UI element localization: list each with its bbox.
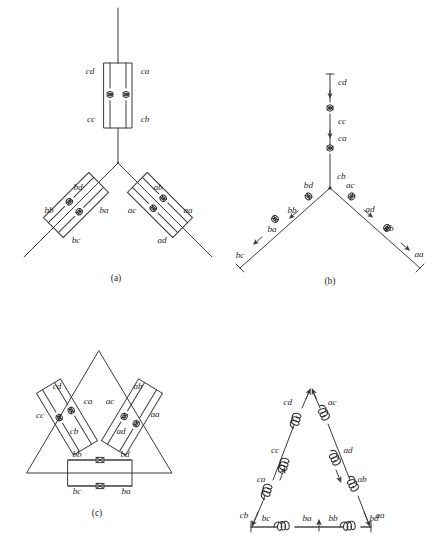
coil-ca-cb-b: [327, 145, 333, 151]
phase-a-bottom-branch-a: [132, 187, 177, 232]
coil-ac-ad-a: [149, 204, 158, 213]
label-a-ba: ba: [99, 205, 109, 215]
label-a-ac: ac: [128, 205, 137, 215]
caption-panel-a: (a): [111, 273, 122, 284]
coil-ca-cb-a: [123, 91, 129, 97]
caption-panel-c: (c): [92, 508, 103, 519]
label-b-bd: bd: [304, 180, 314, 190]
label-d-ca: ca: [257, 474, 266, 484]
label-d-ac: ac: [328, 397, 337, 407]
label-b-bc: bc: [236, 250, 245, 260]
label-a-aa: aa: [183, 205, 193, 215]
coil-bc-ba-d: [274, 521, 289, 530]
label-c-bb: bb: [72, 449, 82, 459]
label-b-bb: bb: [287, 205, 297, 215]
label-c-aa: aa: [150, 409, 160, 419]
coil-ca-cb-d: [259, 483, 273, 501]
label-c-bd: bd: [120, 449, 130, 459]
label-c-cd: cd: [53, 381, 62, 391]
coil-cd-cc-d: [288, 412, 302, 430]
caption-panel-b: (b): [324, 276, 335, 287]
label-a-bd: bd: [73, 182, 83, 192]
label-c-cc: cc: [36, 410, 44, 420]
phase-a-top-branch-a: [142, 177, 187, 222]
label-a-ad: ad: [157, 235, 167, 245]
label-b-ac: ac: [346, 180, 355, 190]
label-a-bc: bc: [72, 235, 81, 245]
coil-ad-ab-d: [327, 449, 341, 467]
phase-c-coil-box-c: [36, 379, 97, 455]
coil-ac-ad-c: [132, 419, 141, 428]
label-b-cc: cc: [338, 116, 346, 126]
label-a-ca: ca: [141, 66, 150, 76]
label-d-cc: cc: [271, 445, 279, 455]
coil-bd-bb-a: [65, 197, 74, 206]
label-c-ca: ca: [84, 396, 93, 406]
label-b-aa: aa: [414, 249, 424, 259]
arrow-a-out-b: [401, 243, 408, 249]
label-c-ba: ba: [121, 486, 131, 496]
coil-bb-bd-d: [340, 521, 355, 530]
coil-cd-cc-b: [327, 105, 333, 111]
label-d-ba: ba: [302, 513, 312, 523]
coil-bb-ba-b: [270, 214, 279, 223]
label-a-cb: cb: [141, 114, 150, 124]
coil-bd-bb-b: [304, 192, 313, 201]
coil-cd-ca-c: [67, 406, 76, 415]
panel-d: cd ac cc ad ca ab cb aa bc ba bb bd (d): [220, 300, 440, 536]
label-d-ab: ab: [357, 474, 367, 484]
label-d-bb: bb: [328, 513, 338, 523]
coil-ab-aa-a: [159, 194, 168, 203]
label-b-ad: ad: [365, 204, 375, 214]
phase-b-bottom-branch-a: [58, 187, 103, 232]
phase-b-top-branch-a: [48, 177, 93, 222]
phase-a-arm-b: [330, 188, 420, 268]
panel-c: cd cc ca cb ac ab aa ad bb bd bc ba (c): [0, 300, 220, 536]
label-a-ab: ab: [153, 182, 163, 192]
coil-ba-bc-a: [75, 207, 84, 216]
label-d-cb: cb: [240, 510, 249, 520]
label-c-cb: cb: [70, 426, 79, 436]
arrow-c-apex-d: [306, 391, 310, 399]
label-b-cd: cd: [338, 77, 347, 87]
phase-b-arm-b: [240, 188, 330, 268]
arrow-c-mid-d: [280, 470, 284, 480]
coil-cc-cd-a: [107, 91, 113, 97]
label-d-ad: ad: [343, 445, 353, 455]
label-b-ba: ba: [267, 224, 277, 234]
coil-cc-cb-c: [55, 413, 64, 422]
label-d-bc: bc: [262, 513, 271, 523]
coil-ab-aa-c: [120, 412, 129, 421]
arrow-c-bottom-d: [253, 512, 258, 524]
label-c-bc: bc: [73, 486, 82, 496]
label-d-cd: cd: [283, 397, 292, 407]
label-b-cb: cb: [337, 171, 346, 181]
label-c-ac: ac: [106, 396, 115, 406]
arrow-a-apex-d: [313, 391, 317, 399]
panel-a: cd ca cc cb bd bb ba bc ab ac aa ad (a): [0, 0, 220, 300]
panel-b: cd cc ca cb bd bb ba bc ac ad ab aa (b): [220, 0, 440, 300]
figure-root: cd ca cc cb bd bb ba bc ab ac aa ad (a): [0, 0, 440, 536]
label-b-ab: ab: [384, 223, 394, 233]
coil-ac-ad-b: [347, 192, 356, 201]
label-b-ca: ca: [338, 133, 347, 143]
arrow-b-out-b: [255, 237, 262, 243]
label-a-cd: cd: [86, 66, 95, 76]
label-c-ab: ab: [133, 381, 143, 391]
arrow-a-bottom-d: [364, 512, 369, 524]
label-c-ad: ad: [116, 426, 126, 436]
label-d-bd: bd: [369, 513, 379, 523]
label-a-cc: cc: [87, 114, 95, 124]
label-a-bb: bb: [44, 205, 54, 215]
arrow-a-mid-d: [336, 470, 340, 480]
